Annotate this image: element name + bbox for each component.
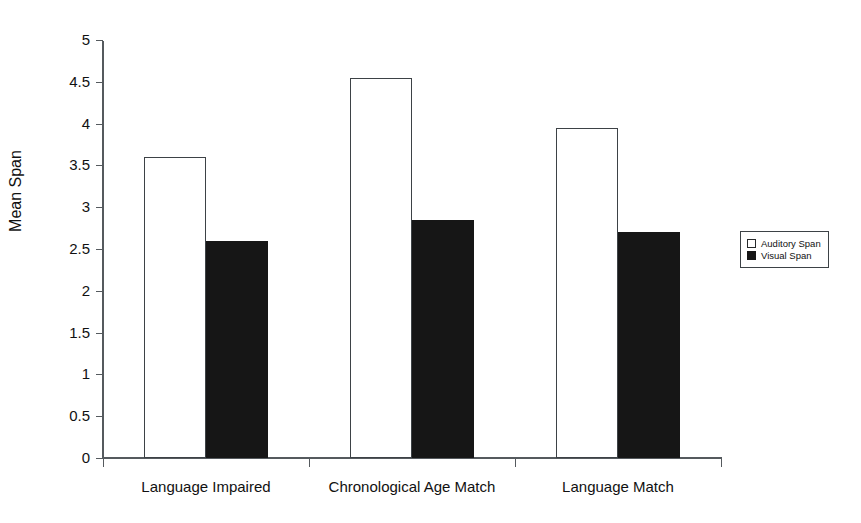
- plot-area: [103, 40, 721, 458]
- y-axis-tick-label: 0: [20, 450, 90, 465]
- y-axis-tick-label: 3: [20, 199, 90, 214]
- x-axis-category-label: Chronological Age Match: [309, 478, 515, 495]
- x-axis-tick-mark: [103, 459, 104, 467]
- y-axis-tick-label: 1.5: [20, 325, 90, 340]
- y-axis-tick-mark: [96, 124, 103, 125]
- y-axis-tick-mark: [96, 333, 103, 334]
- bar-visual-span-chronological-age-match: [412, 220, 474, 458]
- y-axis-tick-label: 3.5: [20, 157, 90, 172]
- y-axis-tick-mark: [96, 291, 103, 292]
- bar-auditory-span-chronological-age-match: [350, 78, 412, 458]
- y-axis-tick-label: 2: [20, 283, 90, 298]
- y-axis-tick-label: 2.5: [20, 241, 90, 256]
- y-axis-tick-mark: [96, 207, 103, 208]
- bar-auditory-span-language-impaired: [144, 157, 206, 458]
- y-axis-tick-label: 4: [20, 116, 90, 131]
- legend-label-auditory-span: Auditory Span: [761, 238, 821, 249]
- legend-swatch-filled-icon: [747, 251, 756, 260]
- bar-auditory-span-language-match: [556, 128, 618, 458]
- x-axis-category-label: Language Impaired: [103, 478, 309, 495]
- bar-visual-span-language-impaired: [206, 241, 268, 458]
- y-axis-tick-mark: [96, 82, 103, 83]
- chart-figure: Mean Span 00.511.522.533.544.55 Language…: [0, 0, 861, 523]
- x-axis-tick-mark: [721, 459, 722, 467]
- legend-item-auditory-span: Auditory Span: [747, 238, 823, 249]
- y-axis-tick-mark: [96, 40, 103, 41]
- legend-swatch-open-icon: [747, 239, 756, 248]
- y-axis-tick-label: 0.5: [20, 408, 90, 423]
- y-axis-tick-label: 4.5: [20, 74, 90, 89]
- legend-item-visual-span: Visual Span: [747, 250, 823, 261]
- y-axis-tick-mark: [96, 249, 103, 250]
- y-axis-tick-mark: [96, 374, 103, 375]
- x-axis-category-label: Language Match: [515, 478, 721, 495]
- y-axis-tick-label: 1: [20, 366, 90, 381]
- y-axis-tick-mark: [96, 165, 103, 166]
- bar-visual-span-language-match: [618, 232, 680, 458]
- y-axis-tick-mark: [96, 416, 103, 417]
- x-axis-tick-mark: [515, 459, 516, 467]
- x-axis-tick-mark: [309, 459, 310, 467]
- y-axis-tick-label: 5: [20, 32, 90, 47]
- chart-legend: Auditory Span Visual Span: [740, 231, 829, 268]
- y-axis-tick-mark: [96, 458, 103, 459]
- legend-label-visual-span: Visual Span: [761, 250, 812, 261]
